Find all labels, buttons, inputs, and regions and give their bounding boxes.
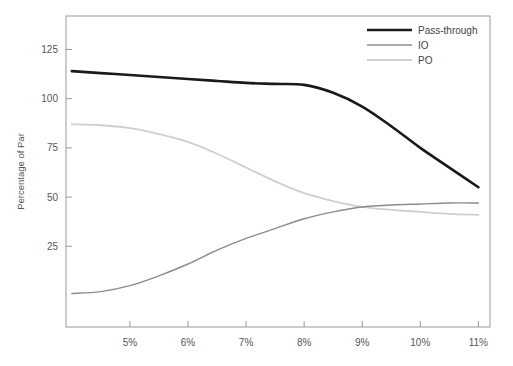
y-axis-tick-label: 100 [41,93,58,104]
legend-label-io: IO [418,40,429,51]
x-axis-tick-label: 11% [469,337,488,348]
legend-label-pass-through: Pass-through [418,25,477,36]
line-chart: 5%6%7%8%9%10%11%125100755025Percentage o… [0,0,513,366]
y-axis-tick-label: 50 [47,192,59,203]
x-axis-tick-label: 7% [239,337,254,348]
y-axis-tick-label: 25 [47,241,59,252]
series-line-po [72,124,479,215]
y-axis-tick-label: 75 [47,142,59,153]
legend-label-po: PO [418,55,433,66]
x-axis-tick-label: 10% [410,337,430,348]
x-axis-tick-label: 9% [355,337,370,348]
x-axis-tick-label: 5% [123,337,138,348]
chart-figure: 5%6%7%8%9%10%11%125100755025Percentage o… [0,0,513,366]
x-axis-tick-label: 6% [181,337,196,348]
series-line-io [72,203,479,294]
y-axis-title: Percentage of Par [15,133,26,210]
y-axis-tick-label: 125 [41,44,58,55]
x-axis-tick-label: 8% [297,337,312,348]
